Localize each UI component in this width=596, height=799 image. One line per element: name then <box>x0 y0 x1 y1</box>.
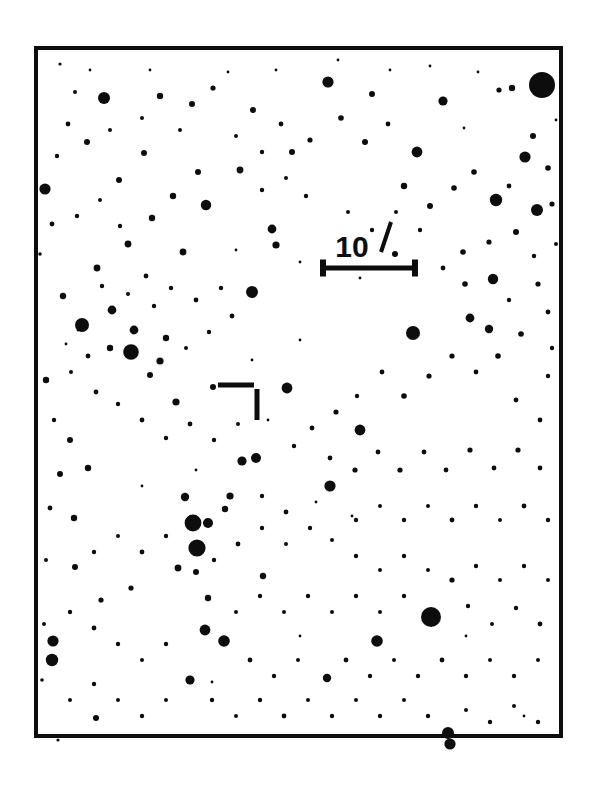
star-point <box>92 626 97 631</box>
star-point <box>67 437 73 443</box>
star-point <box>77 329 80 332</box>
star-point <box>69 370 73 374</box>
star-point <box>207 330 211 334</box>
star-point <box>362 139 368 145</box>
star-point <box>512 704 516 708</box>
star-point <box>237 456 246 465</box>
star-point <box>401 183 407 189</box>
star-point <box>201 200 211 210</box>
star-point <box>444 738 455 749</box>
star-point <box>509 85 515 91</box>
star-point <box>46 654 58 666</box>
star-point <box>248 658 253 663</box>
star-point <box>163 335 169 341</box>
star-point <box>260 188 264 192</box>
star-point <box>466 314 475 323</box>
star-point <box>490 622 494 626</box>
star-point <box>86 354 91 359</box>
star-point <box>338 115 344 121</box>
star-point <box>354 518 358 522</box>
star-point <box>38 252 42 256</box>
star-point <box>89 69 92 72</box>
star-point <box>546 310 551 315</box>
star-point <box>370 228 374 232</box>
star-point <box>235 249 238 252</box>
star-point <box>464 708 468 712</box>
star-point <box>66 122 71 127</box>
star-point <box>140 418 145 423</box>
star-point <box>441 266 446 271</box>
star-point <box>416 674 420 678</box>
star-point <box>412 147 423 158</box>
star-point <box>98 92 110 104</box>
star-point <box>512 674 516 678</box>
star-point <box>140 658 144 662</box>
star-point <box>378 568 382 572</box>
star-point <box>180 249 187 256</box>
star-point <box>306 594 310 598</box>
star-point <box>116 642 120 646</box>
star-point <box>193 569 199 575</box>
star-point <box>210 85 215 90</box>
star-point <box>260 494 264 498</box>
star-point <box>140 116 144 120</box>
star-point <box>328 456 333 461</box>
star-point <box>164 642 168 646</box>
star-point <box>535 281 540 286</box>
star-point <box>282 610 286 614</box>
star-point <box>371 635 383 647</box>
star-point <box>545 165 551 171</box>
star-point <box>236 422 240 426</box>
star-point <box>401 393 407 399</box>
star-point <box>466 604 470 608</box>
star-point <box>268 225 277 234</box>
star-point <box>426 568 430 572</box>
star-point <box>94 390 99 395</box>
star-point <box>47 635 58 646</box>
star-point <box>98 597 103 602</box>
star-point <box>65 343 68 346</box>
star-point <box>250 107 256 113</box>
star-point <box>188 422 193 427</box>
star-point <box>58 62 61 65</box>
star-point <box>75 214 79 218</box>
star-point <box>369 91 375 97</box>
star-point <box>251 359 254 362</box>
star-point <box>536 658 540 662</box>
star-point <box>141 485 144 488</box>
star-point <box>488 658 492 662</box>
star-point <box>258 698 262 702</box>
star-point <box>48 506 53 511</box>
star-point <box>515 447 520 452</box>
star-point <box>324 480 335 491</box>
star-point <box>427 203 433 209</box>
star-point <box>93 715 99 721</box>
star-point <box>98 198 102 202</box>
star-point <box>488 720 492 724</box>
star-point <box>323 674 331 682</box>
star-point <box>100 284 104 288</box>
star-point <box>234 134 238 138</box>
star-point <box>465 635 468 638</box>
star-point <box>421 607 441 627</box>
star-point <box>227 71 230 74</box>
star-point <box>337 59 340 62</box>
star-point <box>172 398 179 405</box>
star-point <box>322 76 333 87</box>
star-point <box>532 254 536 258</box>
star-point <box>203 518 213 528</box>
star-point <box>40 678 44 682</box>
star-point <box>531 204 543 216</box>
star-point <box>147 372 153 378</box>
star-point <box>72 564 78 570</box>
star-point <box>258 594 262 598</box>
star-point <box>555 119 558 122</box>
star-point <box>234 714 238 718</box>
star-point <box>108 306 117 315</box>
star-point <box>299 339 302 342</box>
star-point <box>128 585 133 590</box>
star-point <box>355 394 359 398</box>
star-point <box>141 150 147 156</box>
star-point <box>157 93 163 99</box>
star-point <box>359 277 362 280</box>
